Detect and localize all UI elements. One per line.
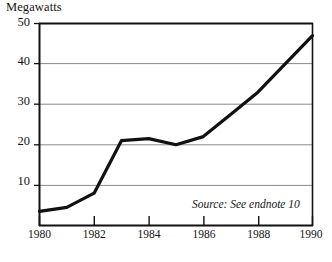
- y-tick-label-20: 20: [4, 134, 30, 149]
- axis-frame: [39, 23, 313, 226]
- y-axis-title: Megawatts: [6, 0, 62, 15]
- y-tick-label-50: 50: [4, 15, 30, 30]
- x-tick-label-1986: 1986: [182, 228, 226, 240]
- x-tick-label-1990: 1990: [289, 228, 332, 240]
- x-tick-label-1984: 1984: [127, 228, 171, 240]
- chart-figure: Megawatts 50 40 30 20 10: [0, 0, 332, 262]
- source-annotation: Source: See endnote 10: [192, 198, 300, 210]
- x-tick-label-1988: 1988: [237, 228, 281, 240]
- x-tick-label-1980: 1980: [18, 228, 62, 240]
- gridlines: [39, 64, 313, 186]
- y-tick-label-30: 30: [4, 94, 30, 109]
- y-tick-label-10: 10: [4, 174, 30, 189]
- x-tick-label-1982: 1982: [72, 228, 116, 240]
- chart-plot-area: [0, 0, 332, 262]
- y-tick-label-40: 40: [4, 54, 30, 69]
